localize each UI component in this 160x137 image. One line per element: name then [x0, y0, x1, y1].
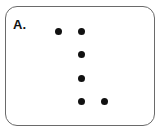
dot [78, 28, 85, 35]
panel-label: A. [13, 17, 26, 32]
dot [78, 98, 85, 105]
diagram-panel: A. [5, 6, 155, 126]
dot [78, 51, 85, 58]
dot [78, 75, 85, 82]
dot [55, 28, 62, 35]
dot [101, 98, 108, 105]
